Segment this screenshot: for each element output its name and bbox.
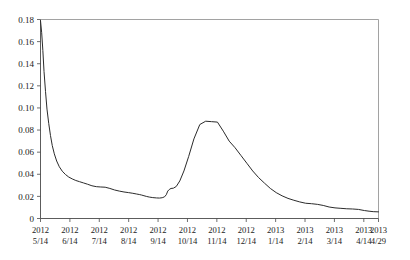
- data-series-line: [41, 21, 379, 212]
- x-tick-label-year: 2012: [61, 225, 78, 235]
- x-tick-label-day: 12/14: [236, 236, 256, 246]
- x-tick-label-day: 4/29: [371, 236, 386, 246]
- x-tick-label-year: 2012: [149, 225, 166, 235]
- y-tick-label: 0.04: [18, 169, 34, 179]
- x-tick-label-day: 2/14: [297, 236, 313, 246]
- x-tick-label-day: 8/14: [121, 236, 137, 246]
- x-tick-label-day: 1/14: [268, 236, 284, 246]
- x-tick-label-year: 2013: [326, 225, 343, 235]
- x-tick-label-day: 7/14: [92, 236, 108, 246]
- y-tick-label: 0.08: [18, 125, 34, 135]
- x-tick-label-year: 2013: [370, 225, 387, 235]
- y-tick-label: 0.10: [18, 103, 34, 113]
- y-tick-label: 0: [30, 214, 35, 224]
- x-tick-label-year: 2012: [238, 225, 255, 235]
- x-tick-label-year: 2012: [91, 225, 108, 235]
- x-axis-ticks: 20125/1420126/1420127/1420128/1420129/14…: [32, 219, 387, 246]
- y-tick-label: 0.16: [18, 37, 34, 47]
- y-tick-label: 0.12: [18, 81, 34, 91]
- x-tick-label-day: 3/14: [327, 236, 343, 246]
- data-series-group: [41, 21, 379, 212]
- plot-frame: [41, 20, 379, 219]
- x-tick-label-day: 4/14: [356, 236, 372, 246]
- y-axis-ticks: 00.020.040.060.080.100.120.140.160.18: [18, 15, 40, 224]
- x-tick-label-day: 10/14: [178, 236, 198, 246]
- x-tick-label-day: 9/14: [150, 236, 166, 246]
- chart-figure: 00.020.040.060.080.100.120.140.160.18 20…: [0, 0, 410, 260]
- x-tick-label-day: 11/14: [207, 236, 227, 246]
- x-tick-label-year: 2013: [296, 225, 313, 235]
- y-tick-label: 0.18: [18, 15, 34, 25]
- line-chart-plot: 00.020.040.060.080.100.120.140.160.18 20…: [0, 0, 410, 260]
- x-tick-label-year: 2012: [179, 225, 196, 235]
- y-tick-label: 0.02: [18, 192, 34, 202]
- y-tick-label: 0.14: [18, 59, 34, 69]
- x-tick-label-year: 2013: [267, 225, 284, 235]
- y-tick-label: 0.06: [18, 147, 34, 157]
- x-tick-label-day: 5/14: [33, 236, 49, 246]
- x-tick-label-day: 6/14: [62, 236, 78, 246]
- x-tick-label-year: 2012: [32, 225, 49, 235]
- x-tick-label-year: 2012: [208, 225, 225, 235]
- x-tick-label-year: 2012: [120, 225, 137, 235]
